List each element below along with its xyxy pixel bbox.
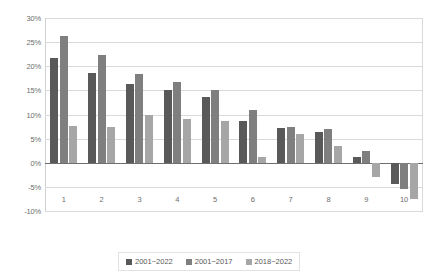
x-axis-tick-label: 7 xyxy=(272,192,310,208)
bar xyxy=(249,110,257,163)
plot-area xyxy=(45,18,423,211)
bar xyxy=(202,97,210,163)
legend-item[interactable]: 2018~2022 xyxy=(246,257,293,266)
legend-item-label: 2001~2022 xyxy=(135,257,173,266)
bar xyxy=(258,157,266,162)
bar-group xyxy=(121,18,159,211)
bar xyxy=(211,90,219,163)
bar-group xyxy=(310,18,348,211)
bar xyxy=(391,163,399,185)
bar xyxy=(353,157,361,163)
bar xyxy=(98,55,106,163)
bar-chart: 30%25%20%15%10%5%0%-5%-10% 12345678910 2… xyxy=(0,0,432,276)
x-axis-tick-label: 3 xyxy=(121,192,159,208)
legend-item-label: 2018~2022 xyxy=(255,257,293,266)
bar-group xyxy=(83,18,121,211)
bar-group xyxy=(385,18,423,211)
bar xyxy=(135,74,143,163)
x-axis-tick-label: 9 xyxy=(347,192,385,208)
bar-group xyxy=(347,18,385,211)
bar xyxy=(277,128,285,163)
x-axis-tick-label: 1 xyxy=(45,192,83,208)
y-axis: 30%25%20%15%10%5%0%-5%-10% xyxy=(0,18,41,211)
bar xyxy=(173,82,181,163)
y-axis-tick-label: 5% xyxy=(31,134,41,143)
x-axis-tick-label: 4 xyxy=(158,192,196,208)
bar xyxy=(315,132,323,163)
x-axis-tick-label: 10 xyxy=(385,192,423,208)
bar xyxy=(60,36,68,163)
bar xyxy=(296,134,304,163)
legend-swatch-icon xyxy=(246,259,252,265)
bar-groups xyxy=(45,18,423,211)
bar-group xyxy=(234,18,272,211)
bar xyxy=(221,121,229,162)
y-axis-tick-label: 25% xyxy=(27,38,41,47)
x-axis-tick-label: 6 xyxy=(234,192,272,208)
bar xyxy=(372,163,380,177)
y-axis-tick-label: 20% xyxy=(27,62,41,71)
bar xyxy=(400,163,408,190)
legend-item-label: 2001~2017 xyxy=(195,257,233,266)
bar xyxy=(69,126,77,163)
legend-item[interactable]: 2001~2017 xyxy=(186,257,233,266)
bar xyxy=(287,127,295,163)
y-axis-tick-label: -5% xyxy=(28,182,41,191)
bar xyxy=(362,151,370,163)
y-axis-tick-label: -10% xyxy=(24,207,41,216)
bar-group xyxy=(158,18,196,211)
bar xyxy=(88,73,96,163)
bar xyxy=(324,129,332,163)
y-axis-tick-label: 0% xyxy=(31,158,41,167)
x-axis-tick-label: 8 xyxy=(310,192,348,208)
bar xyxy=(126,84,134,163)
bar xyxy=(50,58,58,163)
bar xyxy=(145,115,153,163)
legend-swatch-icon xyxy=(186,259,192,265)
legend-item[interactable]: 2001~2022 xyxy=(126,257,173,266)
bar xyxy=(183,119,191,163)
x-axis-tick-label: 2 xyxy=(83,192,121,208)
bar xyxy=(107,127,115,163)
legend-swatch-icon xyxy=(126,259,132,265)
bar-group xyxy=(45,18,83,211)
bar xyxy=(334,146,342,162)
gridline xyxy=(45,211,423,212)
x-axis-tick-label: 5 xyxy=(196,192,234,208)
bar xyxy=(164,90,172,162)
y-axis-tick-label: 30% xyxy=(27,14,41,23)
chart-legend: 2001~20222001~20172018~2022 xyxy=(118,252,300,271)
bar-group xyxy=(196,18,234,211)
bar-group xyxy=(272,18,310,211)
x-axis: 12345678910 xyxy=(45,192,423,208)
bar xyxy=(239,121,247,162)
y-axis-tick-label: 15% xyxy=(27,86,41,95)
y-axis-tick-label: 10% xyxy=(27,110,41,119)
